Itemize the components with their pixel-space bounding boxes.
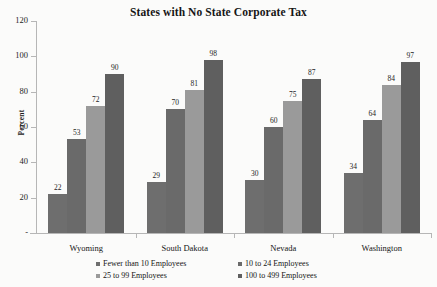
legend-item[interactable]: 25 to 99 Employees bbox=[96, 270, 238, 282]
legend-swatch-icon bbox=[238, 274, 242, 278]
y-tick-label: - bbox=[0, 228, 28, 237]
bar-value-label: 87 bbox=[298, 69, 326, 77]
category-label: Nevada bbox=[228, 243, 338, 253]
bar bbox=[344, 173, 363, 233]
bar-value-label: 90 bbox=[101, 64, 129, 72]
y-tick-label: 20 bbox=[0, 193, 28, 202]
bar bbox=[86, 106, 105, 233]
bar bbox=[363, 120, 382, 233]
legend-item[interactable]: 10 to 24 Employees bbox=[238, 258, 396, 270]
y-tick-mark bbox=[31, 198, 37, 199]
bar bbox=[105, 74, 124, 233]
y-tick-label: 120 bbox=[0, 16, 28, 25]
category-label: Washington bbox=[327, 243, 437, 253]
category-separator bbox=[431, 233, 432, 238]
legend-item[interactable]: Fewer than 10 Employees bbox=[96, 258, 238, 270]
bar bbox=[48, 194, 67, 233]
category-separator bbox=[333, 233, 334, 238]
legend-label: Fewer than 10 Employees bbox=[103, 260, 186, 268]
legend-swatch-icon bbox=[96, 262, 100, 266]
bar-value-label: 98 bbox=[199, 50, 227, 58]
y-tick-label: 80 bbox=[0, 87, 28, 96]
legend-label: 100 to 499 Employees bbox=[245, 272, 317, 280]
bar bbox=[401, 62, 420, 233]
y-tick-label: 40 bbox=[0, 157, 28, 166]
y-tick-mark bbox=[31, 127, 37, 128]
bar bbox=[185, 90, 204, 233]
bar bbox=[147, 182, 166, 233]
y-tick-mark bbox=[31, 92, 37, 93]
y-tick-mark bbox=[31, 233, 37, 234]
bar bbox=[166, 109, 185, 233]
chart-container: States with No State Corporate Tax Perce… bbox=[0, 0, 437, 287]
bar bbox=[204, 60, 223, 233]
bar bbox=[382, 85, 401, 233]
category-separator bbox=[136, 233, 137, 238]
category-separator bbox=[234, 233, 235, 238]
bar bbox=[245, 180, 264, 233]
x-axis-line bbox=[30, 233, 431, 234]
legend-swatch-icon bbox=[238, 262, 242, 266]
y-tick-mark bbox=[31, 21, 37, 22]
chart-legend: Fewer than 10 Employees10 to 24 Employee… bbox=[96, 258, 396, 282]
category-label: Wyoming bbox=[31, 243, 141, 253]
chart-title: States with No State Corporate Tax bbox=[0, 6, 437, 18]
y-tick-label: 60 bbox=[0, 122, 28, 131]
y-tick-label: 100 bbox=[0, 51, 28, 60]
bar bbox=[302, 79, 321, 233]
category-label: South Dakota bbox=[130, 243, 240, 253]
legend-label: 10 to 24 Employees bbox=[245, 260, 309, 268]
y-tick-mark bbox=[31, 162, 37, 163]
bar-value-label: 97 bbox=[396, 52, 424, 60]
y-tick-mark bbox=[31, 56, 37, 57]
bar bbox=[67, 139, 86, 233]
legend-label: 25 to 99 Employees bbox=[103, 272, 167, 280]
bar bbox=[264, 127, 283, 233]
bar bbox=[283, 101, 302, 234]
legend-item[interactable]: 100 to 499 Employees bbox=[238, 270, 396, 282]
legend-swatch-icon bbox=[96, 274, 100, 278]
